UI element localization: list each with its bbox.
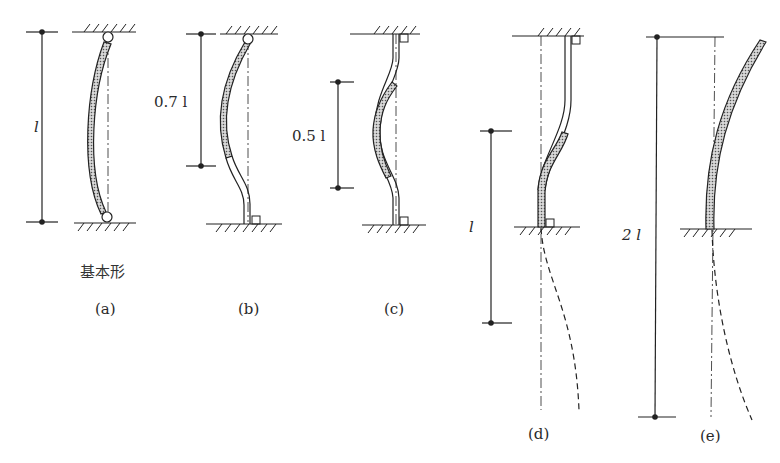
caption-b: (b) bbox=[238, 300, 259, 318]
panel-b bbox=[186, 26, 282, 232]
length-label-d: l bbox=[469, 218, 474, 236]
panel-d bbox=[480, 28, 584, 410]
buckling-diagram bbox=[0, 0, 780, 463]
length-label-a: l bbox=[34, 118, 39, 136]
caption-d: (d) bbox=[528, 425, 549, 443]
panel-a bbox=[26, 24, 136, 231]
length-label-c: 0.5 l bbox=[292, 127, 325, 145]
panel-e bbox=[638, 34, 766, 420]
caption-c: (c) bbox=[384, 300, 404, 318]
caption-e: (e) bbox=[700, 427, 721, 445]
caption-a: (a) bbox=[95, 300, 116, 318]
length-label-e: 2 l bbox=[622, 226, 641, 244]
panel-c bbox=[330, 26, 426, 233]
length-label-b: 0.7 l bbox=[154, 93, 187, 111]
note-a: 基本形 bbox=[80, 260, 125, 281]
